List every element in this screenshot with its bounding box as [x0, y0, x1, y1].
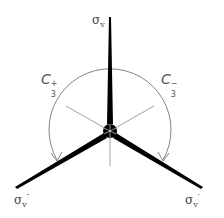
mirror-planes	[15, 17, 203, 189]
sigma-glyph: σ	[14, 193, 22, 207]
prime-mark: ″	[27, 192, 30, 201]
plane-sigma-v1	[113, 133, 203, 189]
axis-upper-right	[110, 106, 154, 131]
label-sigma-v-double-prime: σv″	[14, 193, 30, 209]
c3-superscript: +	[51, 80, 58, 88]
prime-mark: ′	[198, 192, 200, 201]
label-c3-minus: C−3	[161, 72, 177, 86]
c3-superscript: −	[171, 80, 178, 88]
c3-subscript: 3	[171, 91, 176, 99]
label-c3-plus: C+3	[41, 72, 57, 86]
sigma-subscript: v	[22, 200, 27, 209]
sigma-subscript: v	[193, 200, 198, 209]
symmetry-diagram: σv σv″ σv′ C+3 C−3	[0, 0, 224, 218]
c-glyph: C	[161, 71, 171, 87]
arrowhead-right	[158, 152, 169, 161]
diagram-canvas	[0, 0, 224, 218]
label-sigma-v-prime: σv′	[185, 193, 200, 209]
plane-sigma-v2	[15, 133, 107, 189]
sigma-glyph: σ	[92, 13, 100, 27]
sigma-subscript: v	[100, 20, 105, 29]
axis-upper-left	[66, 106, 110, 131]
sigma-glyph: σ	[185, 193, 193, 207]
c3-subscript: 3	[51, 91, 56, 99]
label-sigma-v: σv	[92, 14, 105, 29]
plane-sigma-v	[107, 17, 113, 124]
c-glyph: C	[41, 71, 51, 87]
